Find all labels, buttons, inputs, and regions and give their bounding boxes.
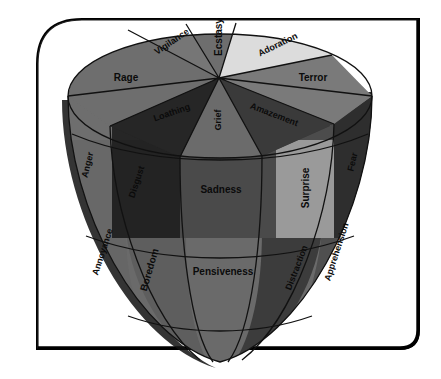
- label-rage: Rage: [114, 72, 139, 83]
- figure-canvas: Vigilance Ecstasy Adoration Rage Terror …: [0, 0, 441, 379]
- label-terror: Terror: [299, 72, 328, 83]
- label-ecstasy: Ecstasy: [213, 18, 224, 56]
- emotion-cone-diagram: Vigilance Ecstasy Adoration Rage Terror …: [0, 0, 441, 379]
- label-sadness: Sadness: [200, 184, 242, 195]
- label-grief: Grief: [213, 108, 223, 130]
- label-surprise: Surprise: [300, 167, 311, 208]
- label-pensiveness: Pensiveness: [193, 266, 254, 277]
